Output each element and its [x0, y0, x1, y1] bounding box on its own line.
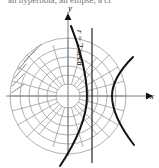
curve-label-eq: = 2 sec [75, 34, 85, 62]
arrow-up-icon [65, 13, 72, 20]
x-axis-label: x [150, 92, 154, 101]
polar-plot-figure [0, 0, 159, 168]
curve-label-theta: θ [75, 61, 85, 65]
hyperbola-right-branch [112, 57, 134, 145]
y-axis-label: y [68, 4, 72, 13]
curve-equation-label: r = 2 secθ [75, 30, 84, 66]
